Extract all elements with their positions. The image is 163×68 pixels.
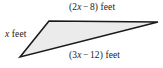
- side-label-top-unit: feet: [101, 2, 116, 12]
- side-label-top: (2x−8) feet: [69, 3, 115, 13]
- side-label-left-unit: feet: [12, 29, 27, 39]
- side-label-bottom-paren-close: ): [100, 50, 103, 60]
- figure-container: (2x−8) feet x feet (3x−12) feet: [0, 0, 163, 68]
- side-label-top-paren-close: ): [95, 2, 98, 12]
- side-label-bottom-constant: 12: [90, 50, 100, 60]
- side-label-left-variable: x: [5, 29, 9, 39]
- side-label-bottom-unit: feet: [105, 50, 120, 60]
- side-label-top-operator: −: [81, 2, 89, 12]
- side-label-bottom-operator: −: [81, 50, 89, 60]
- side-label-bottom: (3x−12) feet: [69, 51, 120, 61]
- side-label-left: x feet: [5, 30, 26, 40]
